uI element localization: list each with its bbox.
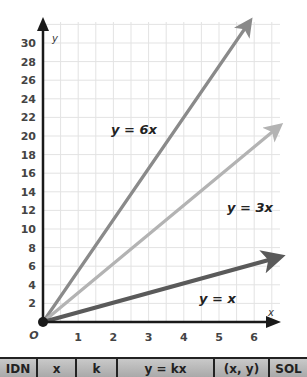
- y-tick-label: 24: [21, 93, 37, 106]
- y-tick-label: 8: [28, 242, 36, 255]
- y-tick-label: 22: [21, 111, 36, 124]
- chart: 24681012141618202224262830123456Oyx y = …: [0, 0, 307, 355]
- origin-point: [38, 317, 48, 327]
- y-tick-label: 28: [21, 56, 36, 69]
- y-tick-label: 10: [21, 223, 37, 236]
- table-header-cell: x: [38, 359, 77, 377]
- line-label: y = x: [199, 291, 236, 306]
- line-label: y = 6x: [111, 122, 157, 137]
- x-tick-label: 6: [250, 331, 258, 344]
- y-tick-label: 4: [28, 279, 36, 292]
- grid: [43, 22, 280, 322]
- origin-label: O: [29, 329, 38, 342]
- x-tick-label: 5: [215, 331, 223, 344]
- table-header-cell: k: [77, 359, 118, 377]
- x-tick-label: 3: [145, 331, 153, 344]
- y-tick-label: 18: [21, 149, 36, 162]
- x-tick-label: 1: [74, 331, 82, 344]
- y-tick-label: 20: [21, 130, 37, 143]
- x-axis-label: x: [267, 307, 274, 318]
- x-tick-label: 4: [180, 331, 188, 344]
- y-tick-label: 26: [21, 74, 37, 87]
- y-tick-label: 16: [21, 167, 37, 180]
- table-header-row: IDNxky = kx(x, y)SOL: [0, 357, 307, 377]
- y-tick-label: 2: [28, 297, 36, 310]
- y-tick-label: 6: [28, 260, 36, 273]
- table-header-cell: SOL: [270, 359, 307, 377]
- y-tick-label: 12: [21, 204, 36, 217]
- x-tick-label: 2: [110, 331, 118, 344]
- y-axis-label: y: [51, 33, 59, 44]
- y-tick-label: 30: [21, 37, 37, 50]
- y-tick-label: 14: [21, 186, 37, 199]
- line-label: y = 3x: [227, 200, 273, 215]
- axes: [37, 17, 281, 328]
- table-header-cell: IDN: [0, 359, 38, 377]
- table-header-cell: (x, y): [215, 359, 270, 377]
- table-header-cell: y = kx: [118, 359, 215, 377]
